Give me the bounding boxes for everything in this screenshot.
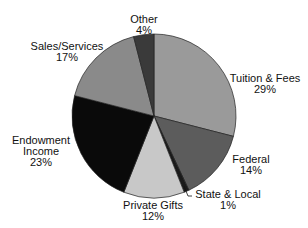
label-federal: Federal 14% [226,154,276,176]
label-other: Other 4% [124,14,164,36]
label-private-gifts-value: 12% [118,211,188,222]
label-private-gifts: Private Gifts 12% [118,200,188,222]
label-other-value: 4% [124,25,164,36]
label-tuition-fees-value: 29% [228,84,302,95]
label-sales-services-value: 17% [27,52,107,63]
label-sales-services: Sales/Services 17% [27,41,107,63]
label-endowment-income: Endowment Income 23% [8,135,74,168]
label-tuition-fees: Tuition & Fees 29% [228,73,302,95]
label-endowment-value: 23% [8,157,74,168]
label-federal-value: 14% [226,165,276,176]
label-state-local-value: 1% [193,200,263,211]
label-state-local: State & Local 1% [193,189,263,211]
